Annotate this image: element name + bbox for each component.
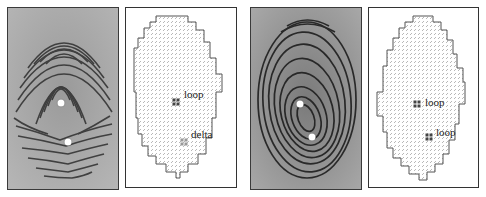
orientation-field-grid-2	[369, 8, 479, 188]
orientation-field-2: loop loop	[368, 7, 479, 188]
delta-marker	[181, 139, 188, 146]
loop-label-upper: loop	[425, 97, 445, 108]
loop-label-lower: loop	[436, 127, 456, 138]
fingerprint-image-1	[7, 7, 119, 190]
singular-point-loop-upper	[297, 101, 304, 108]
fingerprint-image-2	[250, 7, 362, 190]
singular-point-loop-lower	[309, 134, 316, 141]
fingerprint-ridges-1	[8, 8, 119, 190]
orientation-field-1: loop delta	[125, 7, 237, 188]
singular-point-loop	[58, 100, 65, 107]
loop-marker	[173, 99, 180, 106]
loop-label: loop	[184, 89, 204, 100]
loop-marker-lower	[426, 134, 433, 141]
orientation-field-grid-1	[126, 8, 237, 188]
delta-label: delta	[191, 129, 212, 140]
fingerprint-ridges-2	[251, 8, 362, 190]
loop-marker-upper	[414, 101, 421, 108]
singular-point-delta	[65, 139, 72, 146]
